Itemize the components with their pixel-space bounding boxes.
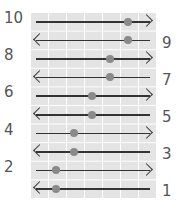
arrow-right-icon [140, 163, 153, 176]
arrow-right-icon [140, 51, 153, 64]
arrow-row [30, 86, 156, 105]
arrow-left-icon [33, 70, 46, 83]
arrow-line [36, 133, 150, 135]
position-dot [106, 55, 114, 63]
row-label: 2 [4, 158, 24, 176]
row-label: 4 [4, 121, 24, 139]
position-dot [124, 36, 132, 44]
arrow-left-icon [33, 107, 46, 120]
row-label: 10 [4, 9, 24, 27]
arrow-right-icon [140, 126, 153, 139]
arrow-row [30, 105, 156, 124]
position-dot [88, 92, 96, 100]
arrow-right-icon [140, 89, 153, 102]
row-label: 3 [162, 145, 172, 163]
arrow-row [30, 49, 156, 68]
arrow-line [36, 21, 150, 23]
arrow-row [30, 31, 156, 50]
arrow-left-icon [33, 182, 46, 195]
row-label: 6 [4, 83, 24, 101]
arrow-line [36, 40, 150, 42]
arrow-left-icon [33, 144, 46, 157]
row-label: 1 [162, 182, 172, 200]
arrow-line [36, 151, 150, 153]
arrow-row [30, 161, 156, 180]
position-dot [124, 18, 132, 26]
row-label: 5 [162, 108, 172, 126]
row-label: 8 [4, 46, 24, 64]
position-dot [52, 185, 60, 193]
arrow-left-icon [33, 33, 46, 46]
position-dot [52, 166, 60, 174]
arrow-row [30, 68, 156, 87]
position-dot [88, 111, 96, 119]
arrow-line [36, 77, 150, 79]
arrow-row [30, 124, 156, 143]
arrow-line [36, 58, 150, 60]
row-label: 7 [162, 71, 172, 89]
position-dot [70, 148, 78, 156]
arrow-row [30, 142, 156, 161]
position-dot [106, 73, 114, 81]
arrow-right-icon [140, 14, 153, 27]
arrow-row [30, 12, 156, 31]
row-label: 9 [162, 34, 172, 52]
position-dot [70, 129, 78, 137]
arrow-row [30, 179, 156, 198]
